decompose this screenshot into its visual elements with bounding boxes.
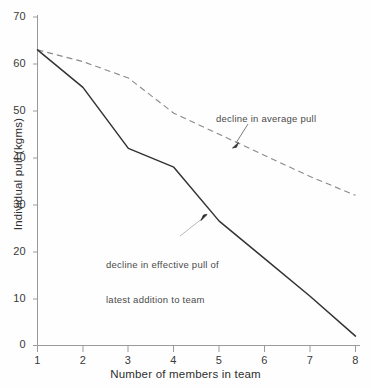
- x-tick-label-5: 5: [209, 354, 229, 366]
- annotation-effective-pull-line2: latest addition to team: [106, 294, 219, 306]
- y-tick-label-0: 0: [4, 338, 26, 350]
- x-tick-label-2: 2: [73, 354, 93, 366]
- y-tick-label-70: 70: [4, 10, 26, 22]
- annotation-average-pull-leader: [233, 124, 249, 148]
- x-tick-label-8: 8: [346, 354, 366, 366]
- plot-area: [0, 0, 371, 388]
- x-axis-title: Number of members in team: [0, 368, 371, 380]
- x-axis-ticks: [38, 346, 356, 353]
- annotation-effective-pull: decline in effective pull of latest addi…: [106, 236, 219, 328]
- x-tick-label-6: 6: [255, 354, 275, 366]
- x-tick-label-4: 4: [164, 354, 184, 366]
- y-axis-ticks: [33, 17, 38, 346]
- x-tick-label-3: 3: [118, 354, 138, 366]
- y-tick-label-10: 10: [4, 292, 26, 304]
- x-tick-label-1: 1: [28, 354, 48, 366]
- y-tick-label-60: 60: [4, 57, 26, 69]
- chart-container: 70 60 50 40 30 20 10 0 1 2 3 4 5 6 7 8 I…: [0, 0, 371, 388]
- annotation-effective-pull-line1: decline in effective pull of: [106, 259, 219, 271]
- annotation-average-pull: decline in average pull: [216, 113, 316, 125]
- y-axis-title: Individual pull (kgms): [12, 94, 24, 254]
- x-tick-label-7: 7: [300, 354, 320, 366]
- annotation-effective-pull-leader: [180, 215, 207, 237]
